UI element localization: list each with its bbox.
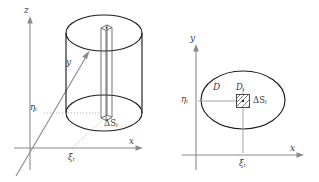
- subregion-subscript: i: [243, 86, 245, 92]
- subregion-symbol: D: [236, 82, 243, 92]
- left-delta-s-label: ΔSi: [104, 119, 118, 129]
- right-x-axis-label: x: [290, 144, 295, 153]
- left-y-axis: [16, 57, 86, 176]
- right-delta-s-subscript: i: [265, 99, 267, 105]
- left-xi-guide-line: [72, 119, 104, 148]
- left-y-axis-arrowhead: [82, 51, 89, 60]
- left-xi-subscript: i: [73, 156, 75, 162]
- right-xi-label: ξi: [239, 159, 245, 169]
- left-panel-group: [14, 15, 143, 176]
- subregion-label-Di: Di: [236, 83, 245, 93]
- region-label-D: D: [213, 83, 220, 92]
- left-delta-s-symbol: ΔS: [104, 118, 116, 128]
- left-x-axis-arrowhead: [136, 145, 144, 151]
- right-eta-label: ηi: [181, 95, 188, 105]
- right-xi-subscript: i: [244, 162, 246, 168]
- vertical-prism-column: [101, 25, 112, 121]
- left-eta-subscript: i: [35, 106, 37, 112]
- subregion-sample-point: [242, 100, 244, 102]
- right-y-axis-arrowhead: [193, 44, 199, 52]
- left-z-axis-arrowhead: [27, 16, 33, 24]
- left-z-axis-label: z: [24, 6, 29, 15]
- left-eta-label: ηi: [30, 103, 37, 113]
- figure-drawing: [0, 0, 319, 182]
- left-x-axis-label: x: [129, 137, 134, 146]
- prism-top-center-dot: [106, 27, 108, 29]
- left-y-axis-label: y: [66, 58, 71, 67]
- left-xi-label: ξi: [68, 153, 74, 163]
- right-x-axis-arrowhead: [297, 152, 305, 158]
- right-delta-s-label: ΔSi: [253, 96, 267, 106]
- cylinder-top-ellipse: [66, 15, 142, 51]
- right-panel-group: [182, 44, 304, 170]
- right-delta-s-symbol: ΔS: [253, 95, 265, 105]
- left-delta-s-subscript: i: [116, 122, 118, 128]
- right-eta-subscript: i: [186, 98, 188, 104]
- figure-container: z y x ηi ξi ΔSi y x D Di ηi ξi ΔSi: [0, 0, 319, 182]
- right-y-axis-label: y: [190, 34, 195, 43]
